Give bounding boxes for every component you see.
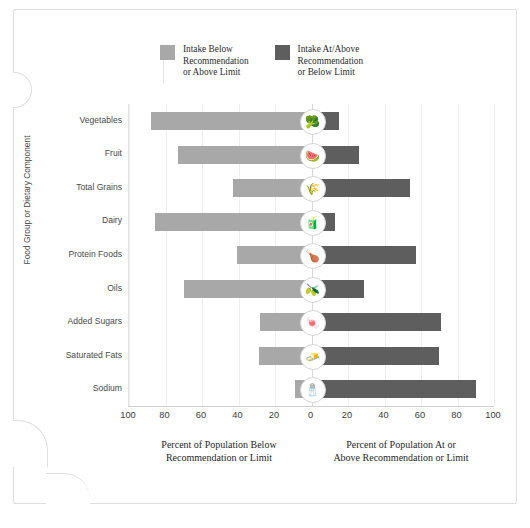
x-tick-label: 80	[437, 410, 477, 420]
milk-carton-icon: 🧃	[300, 210, 326, 236]
bar-row[interactable]: 🌾	[129, 171, 494, 205]
bar-row[interactable]: 🍬	[129, 305, 494, 339]
x-tick-label: 60	[181, 410, 221, 420]
y-tick-label: Added Sugars	[12, 316, 122, 326]
plot-area: 🥦🍉🌾🧃🍗🫒🍬🧈🧂	[128, 104, 494, 407]
bar-row[interactable]: 🥦	[129, 104, 494, 138]
sugar-cubes-icon: 🍬	[300, 310, 326, 336]
bar-row[interactable]: 🫒	[129, 272, 494, 306]
x-axis-title-right: Percent of Population At or Above Recomm…	[310, 438, 492, 464]
fruit-slice-icon: 🍉	[300, 143, 326, 169]
y-tick-label: Total Grains	[12, 182, 122, 192]
x-tick-label: 20	[327, 410, 367, 420]
x-tick-label: 0	[291, 410, 331, 420]
oil-bottle-icon: 🫒	[300, 277, 326, 303]
bar-at-above-recommendation[interactable]	[312, 246, 416, 264]
x-tick-label: 80	[145, 410, 185, 420]
bar-row[interactable]: 🧂	[129, 372, 494, 406]
protein-meat-icon: 🍗	[300, 243, 326, 269]
x-tick-label: 100	[108, 410, 148, 420]
x-axis-title-left: Percent of Population Below Recommendati…	[128, 438, 310, 464]
bar-at-above-recommendation[interactable]	[312, 380, 476, 398]
x-tick-label: 60	[400, 410, 440, 420]
y-tick-label: Vegetables	[12, 115, 122, 125]
x-tick-label: 40	[218, 410, 258, 420]
y-tick-label: Dairy	[12, 215, 122, 225]
chart-plot-wrapper: Food Group or Dietary Component Vegetabl…	[0, 0, 530, 528]
x-tick-label: 20	[254, 410, 294, 420]
bar-row[interactable]: 🧃	[129, 205, 494, 239]
gridline	[494, 104, 495, 406]
x-axis-titles: Percent of Population Below Recommendati…	[128, 438, 493, 464]
x-tick-label: 100	[473, 410, 513, 420]
bar-at-above-recommendation[interactable]	[312, 313, 442, 331]
y-tick-label: Fruit	[12, 148, 122, 158]
grain-stalk-icon: 🌾	[300, 176, 326, 202]
broccoli-icon: 🥦	[300, 109, 326, 135]
bar-row[interactable]: 🍉	[129, 138, 494, 172]
bar-row[interactable]: 🧈	[129, 339, 494, 373]
y-tick-label: Oils	[12, 283, 122, 293]
butter-stick-icon: 🧈	[300, 344, 326, 370]
y-tick-label: Sodium	[12, 383, 122, 393]
salt-shaker-icon: 🧂	[300, 377, 326, 403]
bar-below-recommendation[interactable]	[151, 112, 312, 130]
y-tick-label: Saturated Fats	[12, 350, 122, 360]
bar-row[interactable]: 🍗	[129, 238, 494, 272]
bar-below-recommendation[interactable]	[184, 280, 312, 298]
bar-at-above-recommendation[interactable]	[312, 347, 440, 365]
x-axis-tick-labels: 10080604020020406080100	[128, 410, 493, 426]
y-tick-label: Protein Foods	[12, 249, 122, 259]
bar-below-recommendation[interactable]	[178, 146, 311, 164]
bar-at-above-recommendation[interactable]	[312, 179, 411, 197]
y-axis-tick-labels: VegetablesFruitTotal GrainsDairyProtein …	[10, 104, 122, 406]
x-tick-label: 40	[364, 410, 404, 420]
bar-below-recommendation[interactable]	[155, 213, 312, 231]
